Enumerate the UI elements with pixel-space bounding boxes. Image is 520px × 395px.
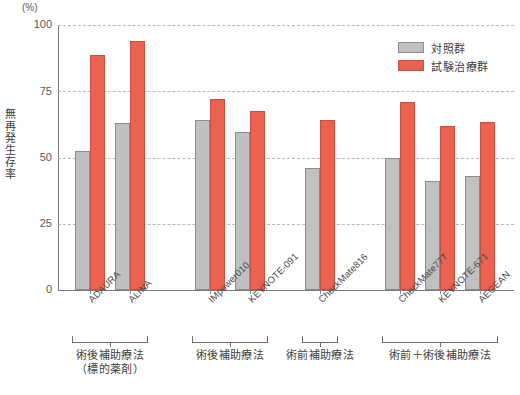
bar-checkmate816-control [305,168,320,290]
y-tick-label-25: 25 [22,217,52,229]
bar-impower010-treatment [210,99,225,290]
y-axis-unit-label: (%) [22,2,38,13]
gridline-75 [58,91,514,92]
y-axis-title: 無再発生存率 [2,108,16,180]
bar-alina-control [115,123,130,290]
bar-adaura-control [75,151,90,290]
y-tick-label-0: 0 [22,283,52,295]
legend-item-control: 対照群 [398,40,489,55]
group-label-4: 術前＋術後補助療法 [370,348,510,362]
bar-alina-treatment [130,41,145,290]
gridline-100 [58,25,514,26]
y-tick-label-50: 50 [22,151,52,163]
legend-swatch-control-icon [398,42,424,53]
group-bracket-2 [192,336,268,343]
bar-impower010-control [195,120,210,290]
group-label-line1: 術前補助療法 [250,348,390,362]
legend: 対照群 試験治療群 [398,40,489,76]
group-label-1: 術後補助療法（標的薬剤） [40,348,180,376]
group-bracket-3 [302,336,338,343]
group-bracket-stem [230,342,231,347]
group-bracket-stem [440,342,441,347]
legend-label-control: 対照群 [431,40,466,56]
group-bracket-4 [382,336,498,343]
legend-label-treatment: 試験治療群 [431,58,489,74]
y-tick-label-100: 100 [22,18,52,30]
bar-chart: (%) 無再発生存率 100 75 50 25 0 ADAURAALINAIMp… [0,0,520,395]
group-label-3: 術前補助療法 [250,348,390,362]
legend-swatch-treatment-icon [398,60,424,71]
y-tick-label-75: 75 [22,85,52,97]
bar-checkmate77t-control [385,158,400,291]
legend-item-treatment: 試験治療群 [398,58,489,73]
group-bracket-stem [320,342,321,347]
group-label-line2: （標的薬剤） [40,362,180,376]
bar-checkmate77t-treatment [400,102,415,290]
group-bracket-1 [72,336,148,343]
group-label-line1: 術前＋術後補助療法 [370,348,510,362]
bar-keynote-091-treatment [250,111,265,290]
group-label-line1: 術後補助療法 [40,348,180,362]
group-bracket-stem [110,342,111,347]
bar-adaura-treatment [90,55,105,290]
bar-checkmate816-treatment [320,120,335,290]
